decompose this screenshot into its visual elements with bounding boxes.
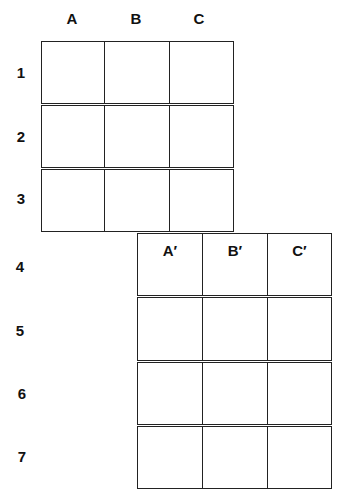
cell-c4: C′ xyxy=(267,233,332,296)
top-col-label-b: B xyxy=(131,11,142,26)
cell-c3 xyxy=(169,169,234,232)
cell-b6 xyxy=(202,362,268,425)
cell-c5 xyxy=(267,297,332,361)
cell-b1 xyxy=(104,41,170,104)
top-col-label-c: C xyxy=(194,11,205,26)
cell-b3 xyxy=(104,169,170,232)
row-label-6: 6 xyxy=(18,386,26,401)
bottom-col-label-a-prime: A′ xyxy=(138,242,202,259)
cell-b2 xyxy=(104,105,170,168)
cell-c7 xyxy=(267,426,332,489)
cell-a2 xyxy=(41,105,106,168)
cell-b5 xyxy=(202,297,268,361)
cell-b4: B′ xyxy=(202,233,268,296)
cell-a3 xyxy=(41,169,106,232)
cell-c6 xyxy=(267,362,332,425)
row-label-2: 2 xyxy=(17,129,25,144)
cell-c2 xyxy=(169,105,234,168)
bottom-col-label-c-prime: C′ xyxy=(268,242,331,259)
bottom-col-label-b-prime: B′ xyxy=(203,242,267,259)
cell-a4: A′ xyxy=(137,233,203,296)
cell-a7 xyxy=(137,426,203,489)
row-label-5: 5 xyxy=(16,323,24,338)
cell-b7 xyxy=(202,426,268,489)
row-label-7: 7 xyxy=(18,449,26,464)
cell-c1 xyxy=(169,41,234,104)
row-label-3: 3 xyxy=(17,191,25,206)
cell-a6 xyxy=(137,362,203,425)
cell-a5 xyxy=(137,297,203,361)
row-label-1: 1 xyxy=(17,65,25,80)
cell-a1 xyxy=(41,41,106,104)
row-label-4: 4 xyxy=(16,259,24,274)
top-col-label-a: A xyxy=(67,11,78,26)
